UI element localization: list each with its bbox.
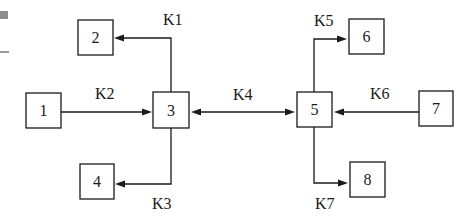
arrowhead-icon xyxy=(115,181,125,188)
node-5: 5 xyxy=(297,92,332,127)
node-3: 3 xyxy=(153,92,189,128)
edge-k7: K7 xyxy=(314,127,348,212)
arrowhead-icon xyxy=(338,180,348,187)
edge-label-k7: K7 xyxy=(315,195,335,212)
node-6: 6 xyxy=(349,19,384,54)
node-8: 8 xyxy=(350,162,385,197)
edge-k6: K6 xyxy=(334,85,419,116)
arrowhead-icon xyxy=(334,109,344,116)
edge-label-k1: K1 xyxy=(163,11,183,28)
edge-label-k3: K3 xyxy=(152,195,172,212)
edge-label-k5: K5 xyxy=(314,12,334,29)
node-label-6: 6 xyxy=(363,28,371,45)
node-1: 1 xyxy=(26,93,61,128)
node-label-1: 1 xyxy=(40,102,48,119)
node-label-7: 7 xyxy=(432,100,440,117)
arrowhead-icon xyxy=(114,35,124,42)
edge-label-k6: K6 xyxy=(370,85,390,102)
edge-k1: K1 xyxy=(114,11,183,92)
flow-diagram: K1 K2 K3 K4 K5 K6 K7 1 xyxy=(0,0,473,218)
node-label-5: 5 xyxy=(311,101,319,118)
edge-k3: K3 xyxy=(115,128,172,212)
node-label-4: 4 xyxy=(93,173,101,190)
edge-label-k4: K4 xyxy=(233,86,253,103)
node-7: 7 xyxy=(419,91,453,126)
edge-k2: K2 xyxy=(61,85,152,116)
node-4: 4 xyxy=(80,164,114,199)
node-label-2: 2 xyxy=(92,29,100,46)
arrowhead-icon xyxy=(285,109,295,116)
arrowhead-icon xyxy=(337,36,347,43)
node-2: 2 xyxy=(78,20,113,55)
edge-k5: K5 xyxy=(314,12,347,92)
node-label-8: 8 xyxy=(364,171,372,188)
arrowhead-icon xyxy=(142,109,152,116)
arrowhead-icon xyxy=(191,109,201,116)
node-label-3: 3 xyxy=(167,102,175,119)
edge-label-k2: K2 xyxy=(95,85,115,102)
edge-k4: K4 xyxy=(191,86,295,116)
